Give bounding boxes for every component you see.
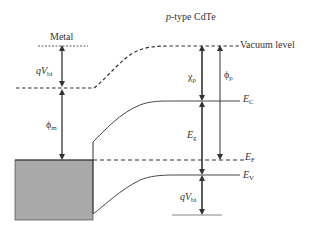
chi-p-subscript: p: [192, 76, 196, 84]
ev-label: EV: [243, 170, 254, 182]
qvbi-bottom-label: qVbi: [180, 192, 197, 204]
ec-label: EC: [243, 94, 254, 106]
qvbi-bottom-subscript: bi: [191, 196, 196, 204]
metal-label: Metal: [50, 32, 73, 42]
qvbi-top-label: qVbi: [36, 66, 53, 78]
eg-subscript: g: [193, 134, 197, 142]
semiconductor-label: p-type CdTe: [166, 12, 216, 22]
chi-p-label: χp: [188, 72, 196, 84]
phi-m-subscript: m: [51, 124, 56, 132]
phi-p-label: ϕp: [224, 70, 233, 82]
ec-subscript: C: [249, 98, 254, 106]
ef-label: EF: [245, 152, 255, 164]
vacuum-level-label: Vacuum level: [240, 40, 295, 50]
metal-block: [15, 160, 93, 220]
qvbi-top-subscript: bi: [47, 70, 52, 78]
conduction-band-line: [93, 101, 240, 142]
eg-label: Eg: [187, 130, 197, 142]
band-diagram: Metal p-type CdTe Vacuum level EC EF EV …: [0, 0, 319, 234]
phi-p-subscript: p: [229, 74, 233, 82]
ef-subscript: F: [251, 156, 255, 164]
semiconductor-material-label: -type CdTe: [171, 11, 216, 22]
ev-subscript: V: [249, 174, 254, 182]
valence-band-line: [93, 175, 240, 214]
band-diagram-graphics: [0, 0, 319, 234]
phi-m-label: ϕm: [46, 120, 57, 132]
